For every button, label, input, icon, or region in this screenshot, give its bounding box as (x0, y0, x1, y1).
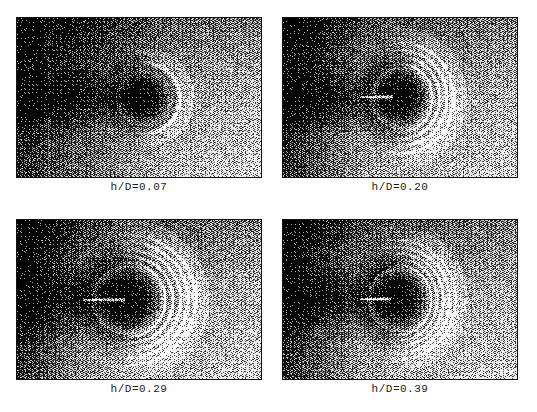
panel-bottom-right-image (282, 219, 518, 380)
panel-bottom-left-caption: h/D=0.29 (16, 383, 262, 395)
panel-top-right-canvas (283, 18, 517, 177)
panel-top-left-caption: h/D=0.07 (16, 181, 262, 193)
panel-bottom-right-canvas (283, 220, 517, 379)
panel-top-left-canvas (17, 18, 261, 177)
figure-container: h/D=0.07 h/D=0.20 h/D=0.29 h/D=0.39 (0, 0, 537, 412)
panel-bottom-left-image (16, 219, 262, 380)
panel-top-right-caption: h/D=0.20 (282, 181, 518, 193)
panel-top-right-image (282, 17, 518, 178)
panel-bottom-right-caption: h/D=0.39 (282, 383, 518, 395)
panel-bottom-left-canvas (17, 220, 261, 379)
panel-top-left-image (16, 17, 262, 178)
